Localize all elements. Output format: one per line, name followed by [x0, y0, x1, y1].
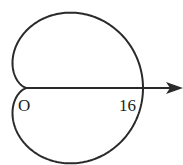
axis-value-label: 16 [119, 96, 136, 115]
pole-label: O [18, 96, 30, 115]
cardioid-diagram: O 16 [0, 0, 183, 165]
